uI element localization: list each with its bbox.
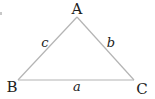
vertex-label-b: B: [6, 78, 17, 96]
side-label-a: a: [73, 79, 81, 94]
side-label-b: b: [107, 35, 115, 50]
triangle-diagram: A B C c b a: [0, 0, 155, 99]
vertex-label-a: A: [71, 0, 83, 18]
side-label-c: c: [41, 35, 49, 50]
side-b-line: [77, 17, 134, 80]
corner-artifact: [0, 12, 2, 15]
vertex-label-c: C: [136, 80, 147, 98]
